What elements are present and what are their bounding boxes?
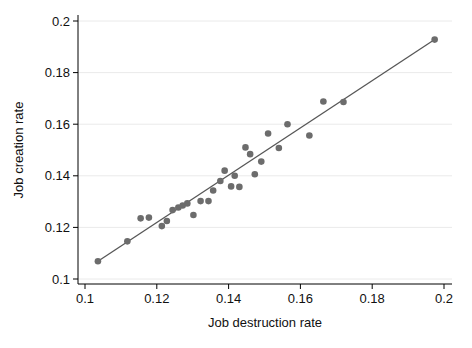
x-tick-labels: 0.10.120.140.160.180.2 — [76, 291, 453, 306]
y-axis-label: Job creation rate — [11, 102, 26, 199]
x-tick-label: 0.12 — [144, 291, 169, 306]
data-point — [340, 99, 347, 106]
y-tick-label: 0.14 — [45, 168, 70, 183]
y-tick-label: 0.12 — [45, 220, 70, 235]
data-point — [169, 207, 176, 214]
data-point — [228, 183, 235, 190]
chart-figure: 0.10.120.140.160.180.2 0.10.120.140.160.… — [0, 0, 472, 348]
data-point — [146, 214, 153, 221]
x-tick-label: 0.16 — [288, 291, 313, 306]
data-point — [431, 36, 438, 43]
gridlines — [78, 21, 452, 279]
y-tick-label: 0.16 — [45, 117, 70, 132]
x-tick-label: 0.18 — [360, 291, 385, 306]
y-tick-label: 0.1 — [52, 272, 70, 287]
data-point — [242, 144, 249, 151]
data-point — [124, 238, 131, 245]
y-tick-label: 0.18 — [45, 65, 70, 80]
x-tick-label: 0.14 — [216, 291, 241, 306]
x-tick-label: 0.1 — [76, 291, 94, 306]
data-point — [320, 98, 327, 105]
data-point — [306, 132, 313, 139]
data-point — [197, 198, 204, 205]
data-point — [247, 151, 254, 158]
data-point — [236, 184, 243, 191]
y-tick-label: 0.2 — [52, 14, 70, 29]
data-point — [164, 218, 171, 225]
data-point — [231, 173, 238, 180]
data-point — [210, 187, 217, 194]
data-point — [284, 121, 291, 128]
x-axis-label: Job destruction rate — [208, 315, 322, 330]
axes — [73, 15, 452, 289]
data-point — [217, 178, 224, 185]
data-point — [184, 200, 191, 207]
data-point — [221, 167, 228, 174]
data-point — [95, 258, 102, 265]
data-point — [137, 215, 144, 222]
data-point — [276, 145, 283, 152]
data-point — [190, 212, 197, 219]
data-point — [252, 171, 259, 178]
scatter-plot: 0.10.120.140.160.180.2 0.10.120.140.160.… — [0, 0, 472, 348]
y-tick-labels: 0.10.120.140.160.180.2 — [45, 14, 70, 287]
data-point — [265, 130, 272, 137]
data-point — [258, 158, 265, 165]
data-point — [205, 198, 212, 205]
x-tick-label: 0.2 — [435, 291, 453, 306]
data-point — [159, 223, 166, 230]
